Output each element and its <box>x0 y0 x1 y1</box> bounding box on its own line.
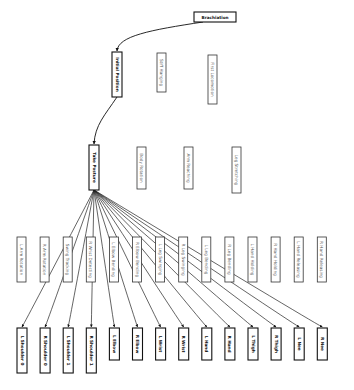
node-label: L Elbow Bending <box>111 242 116 277</box>
node-label: L Hand Releasing <box>296 241 301 278</box>
node-r-hand-releasing[interactable]: R Hand Releasing <box>317 237 326 282</box>
node-l-shoulder-1[interactable]: L Shoulder 1 <box>63 328 73 373</box>
node-label: R Arm Rotation <box>42 244 47 276</box>
node-brachiation[interactable]: Brachiation <box>194 12 236 22</box>
node-l-shoulder-0[interactable]: L Shoulder 0 <box>17 328 27 373</box>
node-label: R Nee <box>320 337 325 351</box>
node-label: R Thigh <box>274 335 279 353</box>
node-r-shoulder-0[interactable]: R Shoulder 0 <box>40 328 50 373</box>
node-first-locomotion[interactable]: First Locomotion <box>208 55 217 104</box>
node-label: L Nee <box>297 337 302 350</box>
node-label: L Elbow <box>112 335 117 353</box>
node-label: L Shoulder 0 <box>20 336 25 366</box>
node-label: Take Posture <box>92 152 97 183</box>
node-label: R Elbow <box>135 335 140 354</box>
node-r-hand[interactable]: R Hand <box>225 328 235 360</box>
node-r-elbow-bending[interactable]: R Elbow Bending <box>133 237 142 282</box>
node-take-posture[interactable]: Take Posture <box>89 145 99 190</box>
node-arm-reaching[interactable]: Arm Reaching <box>184 147 193 189</box>
node-label: R Elbow Bending <box>135 242 140 278</box>
node-label: L Leg Swinging <box>158 244 163 276</box>
node-label: Swing Tracking <box>65 244 70 276</box>
node-label: R Hand Holding <box>273 243 278 276</box>
node-r-nee[interactable]: R Nee <box>317 328 327 360</box>
joint-row: L Shoulder 0R Shoulder 0L Shoulder 1R Sh… <box>17 328 327 373</box>
node-r-wrist-detecting[interactable]: R Wrist Detecting <box>86 237 95 282</box>
node-label: Brachiation <box>201 15 228 20</box>
node-label: L Thigh <box>251 335 256 352</box>
node-label: L Wrist <box>158 336 163 353</box>
node-label: L Shoulder 1 <box>66 336 71 366</box>
edge-take-posture-l-nee <box>94 190 299 327</box>
node-l-wrist[interactable]: L Wrist <box>156 328 166 360</box>
node-l-arm-rotation[interactable]: L Arm Rotation <box>17 237 26 282</box>
node-l-thigh[interactable]: L Thigh <box>248 328 258 360</box>
node-label: Leg Stretching <box>234 155 239 186</box>
node-l-elbow[interactable]: L Elbow <box>109 328 119 360</box>
node-label: L Leg Bending <box>204 245 209 275</box>
node-l-nee[interactable]: L Nee <box>294 328 304 360</box>
node-r-leg-bending[interactable]: R Leg Bending <box>225 237 234 282</box>
node-l-hand[interactable]: L Hand <box>202 328 212 360</box>
node-label: L Arm Rotation <box>19 244 24 275</box>
node-label: Body Rotation <box>139 153 144 183</box>
node-label: Arm Reaching <box>186 153 191 183</box>
node-body-rotation[interactable]: Body Rotation <box>137 147 146 189</box>
skill-row: L Arm RotationR Arm RotationSwing Tracki… <box>17 237 326 282</box>
node-label: R Leg Swinging <box>181 243 186 275</box>
node-l-elbow-bending[interactable]: L Elbow Bending <box>109 237 118 282</box>
node-label: R Shoulder 0 <box>43 335 48 365</box>
node-l-hand-releasing[interactable]: L Hand Releasing <box>294 237 303 282</box>
node-initial-position[interactable]: Initial Position <box>112 52 122 97</box>
node-label: L Hand Holding <box>250 243 255 275</box>
edge-take-posture-l-shoulder-0 <box>22 190 94 327</box>
node-r-wrist[interactable]: R Wrist <box>179 328 189 360</box>
node-r-elbow[interactable]: R Elbow <box>133 328 143 360</box>
node-r-hand-holding[interactable]: R Hand Holding <box>271 237 280 282</box>
brachiation-diagram: Brachiation Initial Position Stiff Hangi… <box>0 0 354 390</box>
node-label: R Hand <box>227 336 232 353</box>
node-r-thigh[interactable]: R Thigh <box>271 328 281 360</box>
node-r-shoulder-1[interactable]: R Shoulder 1 <box>86 328 96 373</box>
node-label: R Shoulder 1 <box>89 335 94 365</box>
node-l-leg-swinging[interactable]: L Leg Swinging <box>156 237 165 282</box>
node-label: First Locomotion <box>210 62 215 97</box>
node-label: L Hand <box>204 336 209 352</box>
node-swing-tracking[interactable]: Swing Tracking <box>63 237 72 282</box>
edge-initial-position-take-posture <box>94 97 117 144</box>
node-label: Initial Position <box>115 57 120 91</box>
node-l-hand-holding[interactable]: L Hand Holding <box>248 237 257 282</box>
node-r-arm-rotation[interactable]: R Arm Rotation <box>40 237 49 282</box>
node-l-leg-bending[interactable]: L Leg Bending <box>202 237 211 282</box>
node-r-leg-swinging[interactable]: R Leg Swinging <box>179 237 188 282</box>
node-label: R Leg Bending <box>227 244 232 275</box>
node-label: R Wrist Detecting <box>88 241 93 278</box>
node-label: R Hand Releasing <box>319 241 324 278</box>
node-label: Stiff Hanging <box>159 59 164 87</box>
node-leg-stretching[interactable]: Leg Stretching <box>232 147 241 193</box>
node-stiff-hanging[interactable]: Stiff Hanging <box>157 53 166 92</box>
node-label: R Wrist <box>181 335 186 352</box>
edge-brachiation-initial-position <box>117 22 203 51</box>
